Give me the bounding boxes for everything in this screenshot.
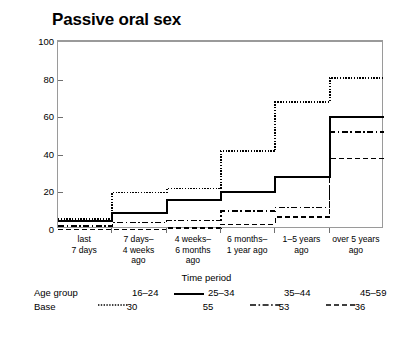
legend-line-sample — [174, 293, 204, 298]
x-tick-mark — [329, 228, 330, 233]
x-tick-mark — [220, 228, 221, 233]
x-axis-title: Time period — [0, 272, 413, 283]
chart-legend: Age group Base 16–243025–345535–445345–5… — [0, 287, 413, 321]
y-tick-label: 80 — [14, 75, 54, 85]
y-tick-label: 60 — [14, 112, 54, 122]
y-tick-label: 0 — [14, 225, 54, 235]
base-value: 53 — [260, 301, 308, 312]
legend-label: 16–24 — [132, 287, 158, 298]
legend-line-sample — [98, 293, 128, 296]
plot-area: 020406080100 — [57, 40, 383, 228]
y-tick-label: 20 — [14, 187, 54, 197]
x-tick-mark — [166, 228, 167, 233]
legend-title: Age group — [34, 287, 78, 298]
legend-label: 35–44 — [284, 287, 310, 298]
base-value: 30 — [108, 301, 156, 312]
x-tick-label: over 5 yearsago — [323, 234, 389, 255]
y-tick-label: 100 — [14, 37, 54, 47]
chart-figure: Passive oral sex 020406080100 Cumulative… — [0, 0, 413, 339]
legend-label: 25–34 — [208, 287, 234, 298]
x-tick-mark — [274, 228, 275, 233]
legend-line-sample — [250, 293, 280, 296]
x-tick-mark — [111, 228, 112, 233]
x-axis-ticks — [57, 228, 383, 230]
base-value: 36 — [336, 301, 384, 312]
chart-title: Passive oral sex — [52, 10, 181, 30]
legend-label: 45–59 — [360, 287, 386, 298]
series-plot — [58, 42, 384, 230]
legend-line-sample — [326, 293, 356, 296]
base-value: 55 — [184, 301, 232, 312]
y-tick-label: 40 — [14, 150, 54, 160]
base-row-label: Base — [34, 301, 56, 312]
x-axis-labels: last7 days7 days–4 weeksago4 weeks–6 mon… — [57, 234, 383, 272]
